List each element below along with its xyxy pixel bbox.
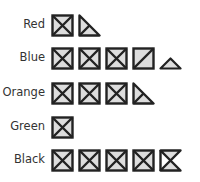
row-green: Green [0,116,200,140]
pictogram-hourglass-icon [159,149,182,172]
row-label: Red [23,17,45,31]
pictogram-full-icon [132,149,155,172]
row-blue: Blue [0,47,200,71]
pictogram-half-lower-left-icon [132,82,155,105]
pictogram-quarter-bottom-icon [159,47,182,70]
row-orange: Orange [0,82,200,106]
pictogram-diag-full-icon [132,47,155,70]
row-red: Red [0,14,200,38]
pictogram-full-icon [105,47,128,70]
row-label: Blue [20,50,45,64]
pictogram-full-icon [105,82,128,105]
row-black: Black [0,149,200,173]
pictogram-half-lower-left-icon [78,14,101,37]
pictogram-full-icon [78,149,101,172]
row-label: Black [14,152,45,166]
pictogram-full-icon [78,82,101,105]
pictogram-full-icon [51,14,74,37]
pictogram-full-icon [105,149,128,172]
pictogram-full-icon [51,82,74,105]
pictogram-full-icon [51,47,74,70]
pictogram-full-icon [51,149,74,172]
pictogram-full-icon [51,116,74,139]
pictogram-full-icon [78,47,101,70]
row-label: Green [10,119,45,133]
row-label: Orange [3,85,46,99]
